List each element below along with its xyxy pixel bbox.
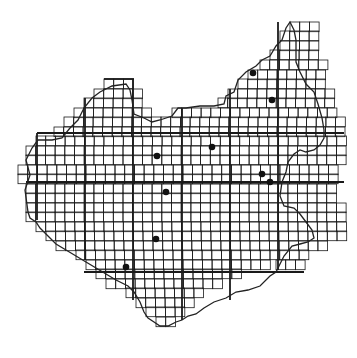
grid-cell [327, 155, 337, 165]
grid-cell [96, 165, 106, 175]
grid-cell [258, 70, 268, 80]
grid-cell [210, 193, 220, 203]
grid-cell [288, 212, 298, 222]
grid-cell [213, 279, 223, 289]
grid-cell [230, 136, 240, 146]
grid-cell [249, 193, 259, 203]
grid-cell [105, 250, 115, 260]
grid-cell [93, 117, 103, 127]
grid-cell [238, 79, 248, 89]
grid-cell [123, 146, 133, 156]
grid-cell [55, 203, 65, 213]
grid-cell [327, 231, 337, 241]
grid-cell [238, 89, 248, 99]
grid-cell [133, 89, 143, 99]
grid-cell [259, 193, 269, 203]
grid-cell [172, 146, 182, 156]
grid-cell [267, 79, 277, 89]
grid-cell [203, 269, 213, 279]
grid-cell [104, 136, 114, 146]
grid-cell [144, 260, 154, 270]
grid-cell [65, 155, 75, 165]
grid-cell [85, 231, 95, 241]
grid-cell [113, 155, 123, 165]
grid-cell [162, 231, 172, 241]
grid-cell [337, 222, 347, 232]
grid-cell [336, 146, 346, 156]
grid-cell [55, 212, 65, 222]
grid-cell [182, 136, 192, 146]
grid-cell [172, 193, 182, 203]
grid-cell [239, 155, 249, 165]
grid-cell [94, 98, 104, 108]
grid-cell [65, 203, 75, 213]
grid-cell [249, 136, 259, 146]
grid-cell [162, 222, 172, 232]
grid-cell [287, 70, 297, 80]
grid-cell [172, 241, 182, 251]
grid-cell [134, 250, 144, 260]
major-grid-lines [26, 22, 344, 320]
grid-cell [163, 241, 173, 251]
grid-cell [146, 307, 156, 317]
grid-cell [299, 165, 309, 175]
grid-cell [297, 117, 307, 127]
grid-cell [182, 231, 192, 241]
grid-cell [85, 136, 95, 146]
grid-cell [103, 98, 113, 108]
grid-cell [55, 222, 65, 232]
grid-cell [201, 222, 211, 232]
grid-cell [113, 212, 123, 222]
grid-cell [142, 212, 152, 222]
grid-cell [241, 260, 251, 270]
grid-cell [133, 222, 143, 232]
grid-cell [133, 98, 143, 108]
grid-cell [103, 108, 113, 118]
grid-cell [113, 108, 123, 118]
grid-cell [249, 212, 259, 222]
grid-cell [211, 108, 221, 118]
grid-cell [298, 184, 308, 194]
grid-cell [144, 165, 154, 175]
grid-cell [191, 108, 201, 118]
grid-cell [55, 193, 65, 203]
grid-cell [249, 155, 259, 165]
grid-cell [250, 231, 260, 241]
grid-cell [306, 79, 316, 89]
occurrence-dot [123, 264, 130, 271]
grid-cell [280, 41, 290, 51]
grid-cell [259, 212, 269, 222]
grid-cell [299, 50, 309, 60]
grid-cell [248, 117, 258, 127]
grid-cell [315, 89, 325, 99]
grid-cell [104, 222, 114, 232]
grid-cell [201, 184, 211, 194]
grid-cell [54, 127, 64, 137]
grid-cell [193, 269, 203, 279]
grid-cell [67, 165, 77, 175]
grid-cell [113, 193, 123, 203]
grid-cell [220, 136, 230, 146]
grid-cell [152, 136, 162, 146]
grid-cell [317, 222, 327, 232]
grid-cell [269, 155, 279, 165]
grid-cell [280, 50, 290, 60]
grid-cell [46, 222, 56, 232]
grid-cell [45, 184, 55, 194]
grid-cell [164, 269, 174, 279]
grid-cell [124, 231, 134, 241]
grid-cell [336, 117, 346, 127]
grid-cell [122, 117, 132, 127]
grid-cell [123, 136, 133, 146]
grid-cell [45, 212, 55, 222]
grid-cell [26, 193, 36, 203]
grid-cell [259, 184, 269, 194]
grid-cell [296, 89, 306, 99]
grid-cell [238, 127, 248, 137]
grid-cell [105, 260, 115, 270]
grid-cell [26, 184, 36, 194]
grid-cell [145, 269, 155, 279]
grid-cell [190, 127, 200, 137]
grid-cell [191, 146, 201, 156]
grid-cell [259, 222, 269, 232]
